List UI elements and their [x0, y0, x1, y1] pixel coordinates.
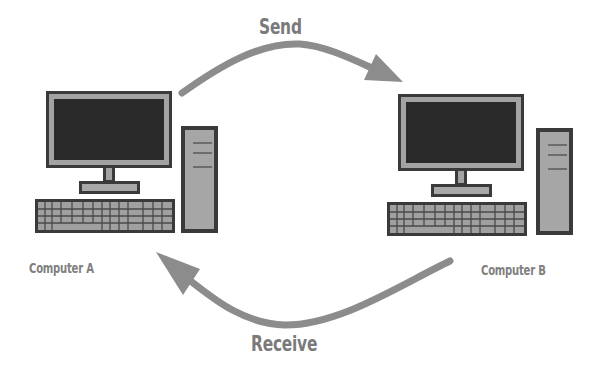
- receive-arrow: [156, 252, 450, 325]
- computer-b-label: Computer B: [481, 262, 546, 278]
- monitor-keyboard-b-icon: [387, 94, 527, 236]
- computer-a: [35, 91, 218, 233]
- computer-b: [387, 94, 573, 236]
- tower-b-icon: [536, 128, 573, 235]
- send-arrow: [182, 44, 403, 93]
- receive-arrowhead-icon: [156, 252, 200, 295]
- send-arrowhead-icon: [364, 54, 403, 82]
- diagram-canvas: [0, 0, 601, 373]
- monitor-keyboard-a-icon: [35, 91, 175, 233]
- computer-a-label: Computer A: [29, 260, 94, 276]
- receive-label: Receive: [251, 331, 317, 356]
- send-label: Send: [259, 14, 302, 39]
- tower-a-icon: [181, 126, 218, 233]
